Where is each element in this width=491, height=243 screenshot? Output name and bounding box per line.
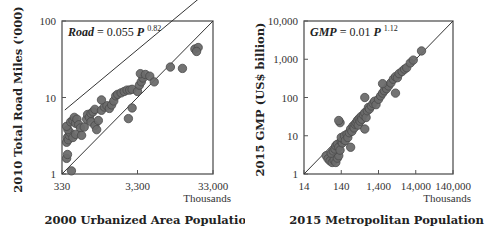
y-tick-label: 100 (282, 92, 299, 104)
data-point (128, 104, 136, 112)
data-point (94, 116, 102, 124)
y-tick-label: 100 (40, 15, 57, 27)
x-tick-label: 140 (333, 180, 350, 192)
data-point (361, 93, 369, 101)
left-chart: 3303,30033,000110100Road = 0.055 P0.8220… (0, 0, 245, 243)
data-point (391, 89, 399, 97)
data-point (192, 47, 200, 55)
x-axis-title: 2015 Metropolitan Population (289, 213, 484, 227)
data-point (150, 78, 158, 86)
x-tick-label: 140,000 (435, 180, 471, 192)
equation-label: Road = 0.055 P0.82 (67, 24, 161, 39)
y-tick-label: 10,000 (268, 15, 299, 27)
x-axis-title: 2000 Urbanized Area Population (45, 213, 245, 227)
x-tick-label: 14,000 (401, 180, 432, 192)
left-chart-canvas: 3303,30033,000110100Road = 0.055 P0.8220… (0, 0, 245, 243)
x-tick-label: 1,400 (366, 180, 391, 192)
data-point (67, 167, 75, 175)
x-tick-label: 33,000 (198, 180, 229, 192)
x-tick-label: 14 (299, 180, 311, 192)
diagonal-line (62, 21, 213, 174)
x-tick-label: 3,300 (125, 180, 150, 192)
y-tick-label: 10 (287, 130, 299, 142)
data-point (77, 131, 85, 139)
equation-label: GMP = 0.01 P1.12 (310, 24, 398, 39)
data-point (63, 150, 71, 158)
data-point (178, 64, 186, 72)
x-axis-unit: Thousands (423, 192, 471, 204)
scatter-points (322, 47, 426, 167)
right-chart: 141401,40014,000140,0001101001,00010,000… (245, 0, 491, 243)
data-point (417, 47, 425, 55)
data-point (166, 63, 174, 71)
data-point (97, 96, 105, 104)
x-axis-unit: Thousands (183, 192, 231, 204)
data-point (346, 143, 354, 151)
y-tick-label: 1 (51, 168, 57, 180)
data-point (378, 79, 386, 87)
y-axis-title: 2010 Total Road Miles ('000) (11, 6, 25, 192)
data-point (335, 116, 343, 124)
y-tick-label: 1 (293, 168, 299, 180)
data-point (124, 114, 132, 122)
right-chart-canvas: 141401,40014,000140,0001101001,00010,000… (245, 0, 491, 243)
data-point (361, 125, 369, 133)
scatter-points (62, 43, 202, 175)
y-tick-label: 1,000 (273, 53, 298, 65)
data-point (409, 56, 417, 64)
x-tick-label: 330 (54, 180, 71, 192)
y-axis-title: 2015 GMP (US$ billion) (253, 23, 267, 177)
y-tick-label: 10 (45, 92, 57, 104)
data-point (92, 125, 100, 133)
